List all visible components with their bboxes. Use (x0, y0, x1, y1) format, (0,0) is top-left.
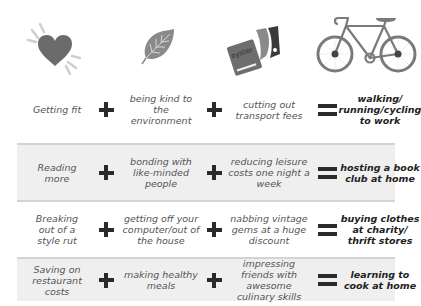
plus-operator (203, 202, 225, 257)
result: hosting a book club at home (339, 145, 421, 200)
equation-row-1: Getting fit being kind to the environmen… (17, 76, 395, 145)
leaf-icon (136, 26, 178, 66)
plus-icon (207, 165, 222, 180)
benefit-1: Breaking out of a style rut (27, 202, 87, 257)
plus-operator (95, 76, 117, 143)
heart-icon (24, 18, 86, 76)
benefit-2: being kind to the environment (123, 76, 199, 143)
benefit-1: Reading more (27, 145, 87, 200)
equals-icon (318, 104, 337, 116)
equals-icon (318, 274, 337, 286)
equals-icon (318, 167, 337, 179)
benefit-3: impressing friends with awesome culinary… (227, 253, 311, 306)
transport-card-icon: oyster (226, 24, 284, 76)
plus-icon (99, 165, 114, 180)
plus-operator (95, 145, 117, 200)
plus-icon (99, 222, 114, 237)
result: walking/ running/cycling to work (339, 76, 421, 143)
equation-row-2: Reading more bonding with like-minded pe… (17, 145, 395, 202)
benefit-3: cutting out transport fees (227, 76, 311, 143)
benefit-2: getting off your computer/out of the hou… (117, 202, 205, 257)
benefit-1: Getting fit (27, 76, 87, 143)
plus-icon (207, 273, 222, 288)
result: buying clothes at charity/ thrift stores (339, 202, 421, 257)
equals-operator (315, 202, 339, 257)
plus-operator (95, 202, 117, 257)
benefit-3: reducing leisure costs one night a week (227, 145, 311, 200)
equation-row-3: Breaking out of a style rut getting off … (17, 202, 395, 259)
icons-row: oyster (0, 0, 420, 76)
benefit-3: nabbing vintage gems at a huge discount (227, 202, 311, 257)
plus-icon (207, 102, 222, 117)
result: learning to cook at home (339, 253, 421, 306)
bicycle-icon (314, 12, 418, 74)
plus-operator (203, 76, 225, 143)
equals-operator (315, 76, 339, 143)
plus-icon (99, 273, 114, 288)
plus-icon (207, 222, 222, 237)
plus-icon (99, 102, 114, 117)
plus-operator (203, 253, 225, 306)
benefit-1: Saving on restaurant costs (27, 253, 87, 306)
benefit-2: making healthy meals (123, 253, 199, 306)
equals-icon (318, 224, 337, 236)
equals-operator (315, 145, 339, 200)
equals-operator (315, 253, 339, 306)
equation-row-4: Saving on restaurant costs making health… (17, 259, 395, 301)
plus-operator (203, 145, 225, 200)
benefit-2: bonding with like-minded people (123, 145, 199, 200)
plus-operator (95, 253, 117, 306)
